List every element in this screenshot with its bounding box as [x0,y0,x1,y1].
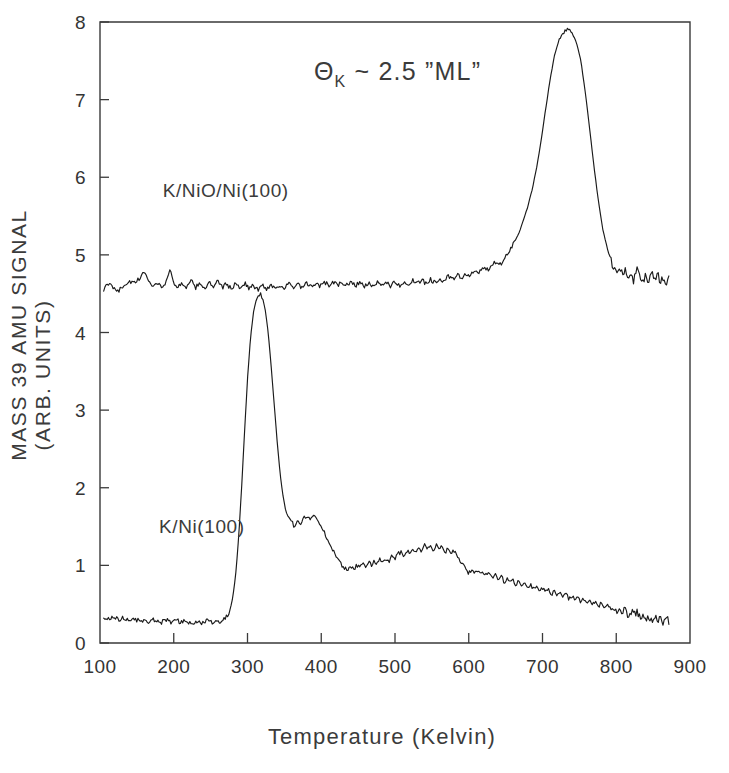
y-tick-label-4: 4 [75,323,86,344]
x-tick-label-800: 800 [600,656,633,677]
y-tick-label-7: 7 [75,90,86,111]
y-tick-label-8: 8 [75,12,86,33]
series-label-k-ni-100-: K/Ni(100) [159,516,245,537]
y-tick-label-5: 5 [75,245,86,266]
x-tick-label-400: 400 [305,656,338,677]
x-axis-title: Temperature (Kelvin) [268,724,496,749]
y-tick-label-1: 1 [75,555,86,576]
x-axis-tick-labels: 100200300400500600700800900 [83,656,706,677]
coverage-annotation-text: ΘK ~ 2.5 ”ML” [314,57,481,90]
y-axis-title-line2: (ARB. UNITS) [31,299,54,450]
y-axis-tick-labels: 012345678 [75,12,86,654]
plot-frame [100,22,690,643]
axis-frame [100,22,690,643]
y-tick-label-3: 3 [75,400,86,421]
y-axis-ticks [100,22,109,643]
x-tick-label-100: 100 [83,656,116,677]
series-label-k-nio-ni-100-: K/NiO/Ni(100) [163,180,289,201]
x-tick-label-300: 300 [231,656,264,677]
coverage-value-text: ~ 2.5 ”ML” [346,57,481,85]
x-tick-label-200: 200 [157,656,190,677]
y-axis-title: MASS 39 AMU SIGNAL (ARB. UNITS) [7,209,54,461]
y-axis-title-line1: MASS 39 AMU SIGNAL [7,209,30,461]
x-axis-ticks [174,633,617,643]
x-tick-label-700: 700 [526,656,559,677]
y-tick-label-6: 6 [75,167,86,188]
y-tick-label-0: 0 [75,633,86,654]
x-tick-label-900: 900 [673,656,706,677]
series-inline-labels: K/NiO/Ni(100)K/Ni(100) [159,180,289,537]
tpd-figure: 012345678 100200300400500600700800900 K/… [0,0,729,773]
tpd-plot-svg: 012345678 100200300400500600700800900 K/… [0,0,729,773]
x-tick-label-500: 500 [378,656,411,677]
theta-subscript-k: K [335,73,347,90]
y-tick-label-2: 2 [75,478,86,499]
x-tick-label-600: 600 [452,656,485,677]
coverage-annotation: ΘK ~ 2.5 ”ML” [314,57,481,90]
trace-k-ni-100- [104,293,669,625]
theta-symbol: Θ [314,57,335,85]
